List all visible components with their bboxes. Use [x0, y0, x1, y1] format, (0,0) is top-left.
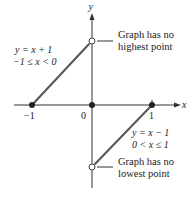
bottom-note-line2: lowest point: [118, 168, 170, 179]
y-axis-arrow-icon: [90, 13, 95, 20]
x-axis-label: x: [181, 99, 187, 110]
open-point-0-1: [89, 38, 95, 44]
x-axis-arrow-icon: [174, 103, 181, 108]
top-note-line2: highest point: [118, 41, 173, 52]
closed-point-origin: [89, 102, 95, 108]
closed-point-neg1-0: [29, 102, 35, 108]
bottom-note-line1: Graph has no: [118, 156, 174, 167]
tick-label-neg1: −1: [24, 110, 35, 121]
top-note-line1: Graph has no: [118, 29, 174, 40]
tick-label-1: 1: [149, 110, 154, 121]
left-equation: y = x + 1: [14, 44, 52, 55]
y-axis-label: y: [88, 1, 94, 12]
right-domain: 0 < x ≤ 1: [132, 139, 169, 150]
left-domain: −1 ≤ x < 0: [13, 56, 56, 67]
tick-label-0: 0: [81, 110, 86, 121]
piecewise-function-graph: y x −1 0 1 y = x + 1 −1 ≤ x < 0 y = x − …: [0, 0, 196, 197]
open-point-0-neg1: [89, 164, 95, 170]
closed-point-1-0: [149, 102, 155, 108]
right-equation: y = x − 1: [131, 127, 169, 138]
